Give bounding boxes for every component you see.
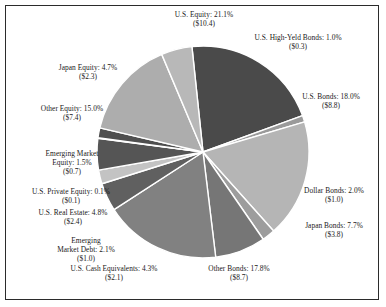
slice-label-other-equity: Other Equity: 15.0% ($7.4) xyxy=(20,104,124,122)
slice-label-dollar-bonds: Dollar Bonds: 2.0% ($1.0) xyxy=(287,186,381,204)
slice-label-emerging-market-debt-amount: ($1.0) xyxy=(30,254,142,263)
slice-label-us-real-estate-text: U.S. Real Estate: 4.8% xyxy=(39,208,108,217)
slice-label-us-cash-equivalents-amount: ($2.1) xyxy=(44,273,184,282)
slice-label-other-bonds-text: Other Bonds: 17.8% xyxy=(208,264,269,273)
slice-label-emerging-market-equity-line2: Equity: 1.5% xyxy=(16,158,128,167)
slice-label-us-high-yeld-bonds-text: U.S. High-Yeld Bonds: 1.0% xyxy=(254,33,341,42)
slice-label-emerging-market-equity-amount: ($0.7) xyxy=(16,167,128,176)
slice-label-japan-bonds-text: Japan Bonds: 7.7% xyxy=(305,221,363,230)
slice-label-other-bonds: Other Bonds: 17.8% ($8.7) xyxy=(189,264,289,282)
slice-label-emerging-market-debt-line2: Market Debt: 2.1% xyxy=(30,245,142,254)
slice-label-us-bonds-amount: ($8.8) xyxy=(283,101,379,110)
slice-label-us-cash-equivalents: U.S. Cash Equivalents: 4.3% ($2.1) xyxy=(44,264,184,282)
slice-label-us-real-estate-amount: ($2.4) xyxy=(14,217,132,226)
slice-label-japan-equity-amount: ($2.3) xyxy=(36,72,140,81)
slice-label-japan-equity: Japan Equity: 4.7% ($2.3) xyxy=(36,63,140,81)
slice-label-us-cash-equivalents-text: U.S. Cash Equivalents: 4.3% xyxy=(70,264,157,273)
slice-label-other-equity-text: Other Equity: 15.0% xyxy=(41,104,103,113)
slice-label-us-real-estate: U.S. Real Estate: 4.8% ($2.4) xyxy=(14,208,132,226)
slice-label-dollar-bonds-text: Dollar Bonds: 2.0% xyxy=(304,186,364,195)
slice-label-us-bonds-text: U.S. Bonds: 18.0% xyxy=(302,92,360,101)
slice-label-dollar-bonds-amount: ($1.0) xyxy=(287,195,381,204)
slice-label-us-bonds: U.S. Bonds: 18.0% ($8.8) xyxy=(283,92,379,110)
slice-label-emerging-market-debt: Emerging Market Debt: 2.1% ($1.0) xyxy=(30,236,142,263)
slice-label-us-private-equity-text: U.S. Private Equity: 0.1% xyxy=(32,187,110,196)
slice-label-japan-bonds-amount: ($3.8) xyxy=(288,230,380,239)
slice-label-us-high-yeld-bonds: U.S. High-Yeld Bonds: 1.0% ($0.3) xyxy=(222,33,374,51)
slice-label-us-private-equity-amount: ($0.1) xyxy=(8,196,134,205)
pie-chart-page: U.S. Equity: 21.1% ($10.4) U.S. High-Yel… xyxy=(0,0,386,307)
slice-label-japan-bonds: Japan Bonds: 7.7% ($3.8) xyxy=(288,221,380,239)
slice-label-emerging-market-equity: Emerging Market Equity: 1.5% ($0.7) xyxy=(16,149,128,176)
slice-label-other-equity-amount: ($7.4) xyxy=(20,113,124,122)
slice-label-emerging-market-debt-line1: Emerging xyxy=(71,236,100,245)
slice-label-japan-equity-text: Japan Equity: 4.7% xyxy=(59,63,118,72)
slice-label-us-equity: U.S. Equity: 21.1% ($10.4) xyxy=(146,10,262,28)
chart-area: U.S. Equity: 21.1% ($10.4) U.S. High-Yel… xyxy=(0,0,386,307)
slice-label-emerging-market-equity-line1: Emerging Market xyxy=(46,149,99,158)
slice-label-us-high-yeld-bonds-amount: ($0.3) xyxy=(222,42,374,51)
slice-label-other-bonds-amount: ($8.7) xyxy=(189,273,289,282)
slice-label-us-equity-amount: ($10.4) xyxy=(146,19,262,28)
slice-label-us-equity-text: U.S. Equity: 21.1% xyxy=(175,10,234,19)
slice-label-us-private-equity: U.S. Private Equity: 0.1% ($0.1) xyxy=(8,187,134,205)
